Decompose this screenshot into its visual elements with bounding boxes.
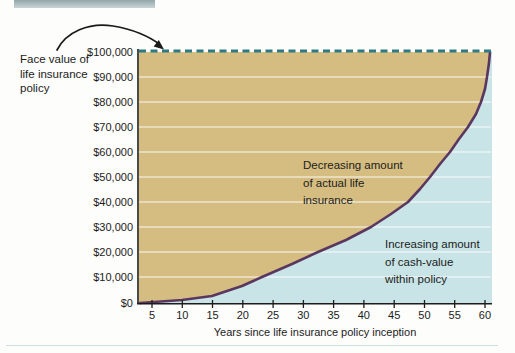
x-tick-label: 15 [200,309,226,321]
x-tick-label: 50 [411,309,437,321]
decreasing-insurance-label-line: Decreasing amount [303,157,403,175]
increasing-cash-value-label: Increasing amount of cash-value within p… [385,236,480,289]
y-tick-label: $100,000 [0,46,133,58]
y-tick-label: $20,000 [0,246,133,258]
increasing-cash-value-label-line: Increasing amount [385,236,480,254]
face-value-label-line: policy [20,81,89,96]
x-tick-label: 55 [442,309,468,321]
x-tick-label: 60 [472,309,498,321]
y-tick-label: $40,000 [0,196,133,208]
x-tick-label: 40 [351,309,377,321]
decreasing-insurance-label: Decreasing amount of actual life insuran… [303,157,403,210]
y-tick-label: $60,000 [0,146,133,158]
increasing-cash-value-label-line: within policy [385,271,480,289]
x-axis-title: Years since life insurance policy incept… [138,326,492,338]
bottom-page-rule [6,345,498,346]
x-tick-label: 30 [290,309,316,321]
decreasing-insurance-label-line: of actual life [303,175,403,193]
x-tick-label: 25 [260,309,286,321]
y-tick-label: $90,000 [0,71,133,83]
y-tick-label: $30,000 [0,221,133,233]
life-insurance-chart-figure: Face value of life insurance policy Decr… [0,0,515,353]
x-tick-label: 35 [321,309,347,321]
x-tick-label: 45 [381,309,407,321]
y-tick-label: $50,000 [0,171,133,183]
y-tick-label: $0 [0,297,133,309]
x-tick-label: 20 [230,309,256,321]
decreasing-insurance-label-line: insurance [303,192,403,210]
increasing-cash-value-label-line: of cash-value [385,254,480,272]
y-tick-label: $80,000 [0,96,133,108]
x-tick-label: 10 [169,309,195,321]
x-tick-label: 5 [139,309,165,321]
y-tick-label: $10,000 [0,271,133,283]
y-tick-label: $70,000 [0,121,133,133]
